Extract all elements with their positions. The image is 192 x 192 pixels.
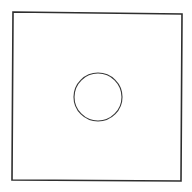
background — [0, 0, 192, 192]
diagram-canvas — [0, 0, 192, 192]
